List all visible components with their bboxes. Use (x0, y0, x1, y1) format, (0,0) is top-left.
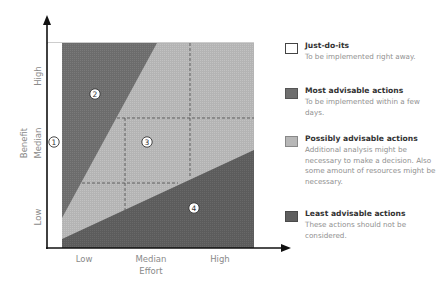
x-axis-title: Effort (131, 266, 171, 276)
marker-4: 4 (189, 203, 199, 213)
legend-title: Least advisable actions (305, 209, 406, 218)
svg-text:3: 3 (145, 138, 150, 147)
swatch-white (285, 43, 298, 54)
y-tick-low: Low (33, 202, 43, 232)
swatch-least (285, 211, 298, 222)
svg-text:2: 2 (93, 90, 98, 99)
legend-title: Most advisable actions (305, 86, 403, 95)
swatch-dark (285, 88, 298, 99)
svg-text:4: 4 (192, 204, 197, 213)
legend-desc: To be implemented within a few days. (305, 97, 441, 118)
y-axis-title: Benefit (19, 123, 29, 163)
svg-text:1: 1 (52, 138, 57, 147)
marker-3: 3 (142, 137, 152, 147)
legend-desc: Additional analysis might be necessary t… (305, 145, 441, 188)
x-tick-median: Median (131, 254, 171, 264)
y-tick-high: High (33, 61, 43, 91)
marker-2: 2 (90, 89, 100, 99)
marker-1: 1 (49, 137, 59, 147)
y-axis-arrow-icon (43, 15, 51, 25)
y-tick-median: Median (33, 123, 43, 163)
legend-desc: These actions should not be considered. (305, 220, 441, 241)
swatch-light (285, 136, 298, 147)
legend-title: Possibly advisable actions (305, 134, 418, 143)
legend-title: Just-do-its (305, 41, 349, 50)
x-tick-low: Low (72, 254, 96, 264)
x-tick-high: High (205, 254, 235, 264)
legend-desc: To be implemented right away. (305, 52, 441, 63)
x-axis-arrow-icon (281, 244, 291, 252)
